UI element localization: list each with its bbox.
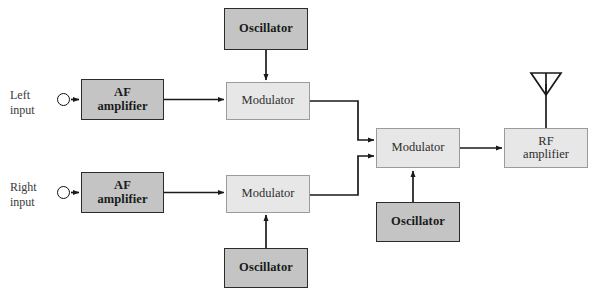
- block-modulator-lower[interactable]: Modulator: [226, 175, 310, 213]
- block-oscillator-top[interactable]: Oscillator: [224, 8, 308, 50]
- antenna-icon: [531, 73, 561, 95]
- block-modulator-center[interactable]: Modulator: [376, 128, 460, 168]
- block-af-amplifier-left[interactable]: AFamplifier: [81, 79, 164, 120]
- wire-modulator-upper-to-modulator-center: [310, 101, 374, 140]
- block-af-amplifier-right[interactable]: AFamplifier: [81, 172, 164, 213]
- block-diagram: Leftinput Rightinput Oscillator AFamplif…: [0, 0, 596, 296]
- left-input-terminal[interactable]: [57, 93, 70, 106]
- right-input-label: Rightinput: [10, 180, 56, 210]
- block-label: Modulator: [392, 141, 445, 155]
- block-label: Oscillator: [239, 261, 293, 275]
- block-label: Modulator: [242, 187, 295, 201]
- block-label: Oscillator: [239, 22, 293, 36]
- block-oscillator-center[interactable]: Oscillator: [376, 202, 460, 242]
- block-oscillator-bottom[interactable]: Oscillator: [224, 248, 308, 288]
- right-input-terminal[interactable]: [57, 186, 70, 199]
- block-label: RFamplifier: [523, 135, 569, 162]
- left-input-label: Leftinput: [10, 88, 56, 118]
- block-rf-amplifier[interactable]: RFamplifier: [504, 128, 588, 168]
- block-label: AFamplifier: [97, 86, 147, 113]
- block-modulator-upper[interactable]: Modulator: [226, 82, 310, 120]
- block-label: Modulator: [242, 94, 295, 108]
- wire-modulator-lower-to-modulator-center: [310, 156, 374, 195]
- block-label: AFamplifier: [97, 179, 147, 206]
- block-label: Oscillator: [391, 215, 445, 229]
